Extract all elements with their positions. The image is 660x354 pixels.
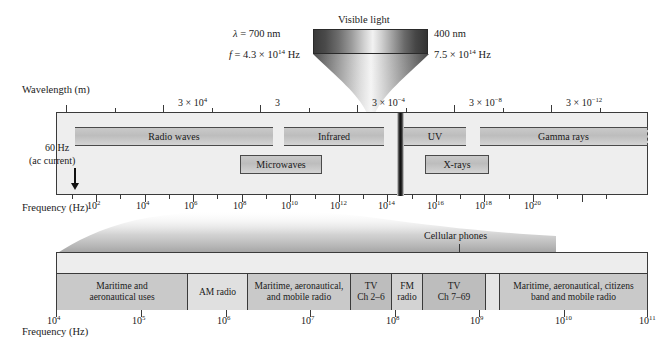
ac-current-label-line2: (ac current) — [29, 156, 75, 166]
frequency-axis-tick — [266, 195, 267, 199]
frequency-tick-label: 106 — [217, 316, 230, 326]
spectrum-band-label: X-rays — [443, 159, 470, 170]
radio-band-segment: Maritime, aeronautical, citizensband and… — [500, 274, 647, 310]
frequency-axis-tick — [509, 195, 510, 199]
visible-light-stripe — [397, 113, 404, 196]
wavelength-tick-label: 3 × 10−12 — [566, 98, 602, 108]
frequency-axis-tick — [169, 195, 170, 199]
radio-band-segment-label: Ch 2–6 — [357, 292, 385, 303]
visible-light-funnel — [300, 54, 442, 113]
wavelength-axis-tick — [454, 105, 455, 112]
ac-current-label-line1: 60 Hz — [45, 143, 69, 153]
visible-left-wavelength-label: λ = 700 nm — [233, 29, 281, 40]
frequency-axis-tick — [315, 195, 316, 199]
frequency-axis-tick — [557, 195, 558, 199]
radio-band-segment: AM radio — [188, 274, 248, 310]
spectrum-band-label: Gamma rays — [538, 131, 589, 142]
radio-band-segment: Maritime andaeronautical uses — [57, 274, 188, 310]
radio-band-segment-label: band and mobile radio — [531, 292, 616, 303]
frequency-axis-tick — [363, 195, 364, 199]
visible-right-wavelength-label: 400 nm — [434, 29, 466, 40]
radio-band-segment-label: and mobile radio — [267, 292, 331, 303]
frequency-tick-label: 104 — [47, 316, 60, 326]
spectrum-band-label: UV — [428, 131, 442, 142]
visible-light-title: Visible light — [338, 15, 390, 26]
visible-right-frequency-label: 7.5 × 1014 Hz — [434, 50, 491, 61]
spectrum-band: X-rays — [425, 155, 489, 174]
em-spectrum-figure: Visible light λ = 700 nm f = 4.3 × 1014 … — [0, 0, 660, 354]
frequency-axis-tick — [606, 195, 607, 199]
upper-spectrum-panel: Radio wavesInfraredUVGamma rays Microwav… — [56, 112, 648, 195]
frequency-tick-label: 105 — [132, 316, 145, 326]
radio-band-strip: Maritime andaeronautical usesAM radioMar… — [57, 273, 647, 310]
spectrum-band: UV — [404, 127, 466, 146]
frequency-axis-tick — [217, 195, 218, 199]
frequency-axis-tick — [412, 195, 413, 199]
radio-band-segment-label: aeronautical uses — [89, 292, 154, 303]
wavelength-axis-tick — [357, 105, 358, 112]
spectrum-band: Radio waves — [75, 127, 273, 146]
spectrum-band: Microwaves — [240, 155, 322, 174]
frequency-tick-label: 107 — [301, 316, 314, 326]
frequency-tick-label: 1011 — [639, 316, 656, 326]
radio-band-segment-label: AM radio — [199, 287, 236, 298]
wavelength-axis-tick — [551, 105, 552, 112]
lower-frequency-axis-title: Frequency (Hz) — [22, 327, 88, 338]
frequency-tick-label: 1010 — [555, 316, 572, 326]
radio-band-segment: FMradio — [392, 274, 423, 310]
cellular-phones-label: Cellular phones — [424, 231, 487, 241]
spectrum-band-label: Radio waves — [148, 131, 199, 142]
wavelength-axis-tick — [163, 105, 164, 112]
wavelength-tick-label: 3 × 104 — [178, 98, 207, 108]
spectrum-band-label: Infrared — [318, 131, 350, 142]
spectrum-band-label: Microwaves — [256, 159, 305, 170]
radio-band-segment-label: Maritime and — [96, 281, 147, 292]
radio-band-segment: TVCh 2–6 — [351, 274, 392, 310]
visible-left-frequency-label: f = 4.3 × 1014 Hz — [229, 50, 300, 61]
radio-band-segment-label: TV — [448, 281, 461, 292]
radio-band-segment: TVCh 7–69 — [423, 274, 486, 310]
radio-band-segment-label: Maritime, aeronautical, — [255, 281, 344, 292]
wavelength-axis-tick — [260, 105, 261, 112]
frequency-axis-tick — [120, 195, 121, 199]
spectrum-band: Gamma rays — [480, 127, 648, 146]
frequency-axis-tick — [72, 195, 73, 199]
wavelength-tick-label: 3 — [275, 98, 280, 108]
frequency-tick-label: 108 — [386, 316, 399, 326]
visible-light-spectrum-bar — [313, 29, 428, 54]
wavelength-tick-label: 3 × 10−8 — [469, 98, 502, 108]
radio-band-segment-label: radio — [397, 292, 417, 303]
radio-band-segment-label: Ch 7–69 — [438, 292, 470, 303]
radio-band-segment-label: TV — [365, 281, 378, 292]
frequency-tick-label: 109 — [470, 316, 483, 326]
frequency-axis-tick — [460, 195, 461, 199]
wavelength-axis-title: Wavelength (m) — [22, 85, 90, 96]
radio-band-segment-label: FM — [400, 281, 414, 292]
wavelength-tick-label: 3 × 10−4 — [372, 98, 405, 108]
radio-band-segment-label: Maritime, aeronautical, citizens — [513, 281, 633, 292]
radio-band-segment — [486, 274, 500, 310]
ac-current-arrow-icon — [74, 168, 76, 184]
radio-band-segment: Maritime, aeronautical,and mobile radio — [248, 274, 351, 310]
wavelength-axis-tick — [66, 105, 67, 112]
spectrum-band: Infrared — [284, 127, 384, 146]
frequency-axis-tick — [582, 195, 583, 202]
radio-band-panel: Maritime andaeronautical usesAM radioMar… — [56, 252, 648, 310]
